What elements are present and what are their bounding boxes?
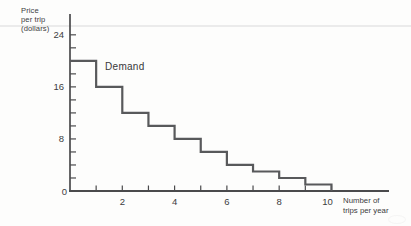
x-tick-label: 4 (172, 196, 177, 207)
x-tick-label: 6 (224, 196, 229, 207)
x-tick-label: 10 (322, 196, 333, 207)
demand-curve (70, 61, 331, 191)
x-tick-label: 2 (120, 196, 125, 207)
y-tick-label: 0 (62, 186, 67, 197)
x-axis-title-line-1: Number of (343, 196, 389, 206)
scan-artifact (388, 215, 406, 224)
x-tick-label: 8 (277, 196, 282, 207)
demand-curve-label: Demand (105, 61, 145, 72)
x-axis-title-line-2: trips per year (343, 206, 389, 216)
y-tick-label: 24 (53, 29, 64, 40)
y-tick-label: 16 (53, 81, 64, 92)
x-axis-title: Number of trips per year (343, 196, 389, 215)
demand-chart-svg: 081624246810 (0, 0, 411, 226)
demand-curve-figure: Price per trip (dollars) 081624246810 De… (0, 0, 411, 226)
y-tick-label: 8 (59, 133, 64, 144)
